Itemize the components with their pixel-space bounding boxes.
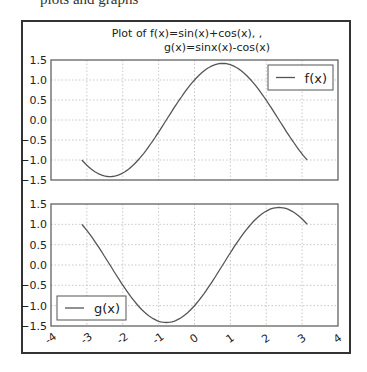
legend-label: g(x) xyxy=(94,301,120,316)
x-tick-label: -3 xyxy=(78,330,94,347)
y-tick-label: 1.5 xyxy=(30,54,48,67)
x-tick-label: 3 xyxy=(295,331,308,346)
y-tick-label: 1.0 xyxy=(30,218,48,231)
legend-label: f(x) xyxy=(305,71,327,86)
x-tick-label: 4 xyxy=(331,331,344,346)
y-tick-label: −0.5 xyxy=(20,279,47,292)
subplot-g: 1.51.00.50.0−0.5−1.0−1.5g(x)-4-3-2-10123… xyxy=(20,198,344,347)
y-tick-label: 1.5 xyxy=(30,198,48,211)
chart-figure: Plot of f(x)=sin(x)+cos(x), , g(x)=sinx(… xyxy=(0,0,367,372)
x-tick-label: 2 xyxy=(259,331,272,346)
y-tick-label: −1.0 xyxy=(20,154,47,167)
y-tick-label: 0.0 xyxy=(30,259,48,272)
chart-title-line-2: g(x)=sinx(x)-cos(x) xyxy=(164,41,270,54)
x-tick-label: 1 xyxy=(223,331,236,346)
x-tick-label: -1 xyxy=(150,330,166,347)
x-tick-label: -2 xyxy=(114,330,130,347)
y-tick-label: −1.5 xyxy=(20,174,47,187)
y-tick-label: 0.5 xyxy=(30,239,48,252)
subplot-f: 1.51.00.50.0−0.5−1.0−1.5f(x) xyxy=(20,54,338,187)
chart-title-line-1: Plot of f(x)=sin(x)+cos(x), , xyxy=(112,27,263,40)
x-tick-label: 0 xyxy=(188,331,201,346)
y-tick-label: 0.0 xyxy=(30,114,48,127)
y-tick-label: 1.0 xyxy=(30,74,48,87)
y-tick-label: −1.5 xyxy=(20,320,47,333)
y-tick-label: 0.5 xyxy=(30,94,48,107)
y-tick-label: −0.5 xyxy=(20,134,47,147)
y-tick-label: −1.0 xyxy=(20,300,47,313)
